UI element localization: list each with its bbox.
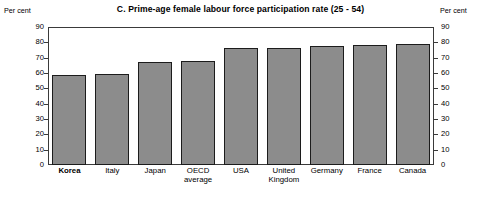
x-axis-category-label: OECD average <box>177 167 220 184</box>
bar <box>224 48 258 165</box>
bar <box>95 74 129 165</box>
bar <box>396 44 430 165</box>
y-tick-label-right: 70 <box>441 54 463 62</box>
bars-layer <box>48 27 434 165</box>
y-tick-label-right: 80 <box>441 38 463 46</box>
y-tick-label-right: 0 <box>441 161 463 169</box>
bar <box>52 75 86 165</box>
y-tick-label-left: 20 <box>22 130 44 138</box>
y-tick-mark-right <box>434 150 438 151</box>
y-tick-label-right: 20 <box>441 130 463 138</box>
x-axis-category-label: Italy <box>91 167 134 176</box>
left-axis-unit-caption: Per cent <box>4 6 31 15</box>
bar <box>138 62 172 165</box>
y-tick-label-left: 70 <box>22 54 44 62</box>
y-tick-mark-right <box>434 134 438 135</box>
y-tick-mark-right <box>434 88 438 89</box>
x-axis-category-label: United Kingdom <box>262 167 305 184</box>
y-tick-label-left: 30 <box>22 115 44 123</box>
y-tick-label-left: 90 <box>22 23 44 31</box>
right-axis-unit-caption: Per cent <box>440 6 467 15</box>
x-axis-category-label: Canada <box>391 167 434 176</box>
y-tick-label-left: 0 <box>22 161 44 169</box>
y-tick-label-left: 60 <box>22 69 44 77</box>
bar <box>353 45 387 165</box>
y-tick-label-right: 60 <box>441 69 463 77</box>
bar <box>181 61 215 165</box>
y-tick-label-right: 90 <box>441 23 463 31</box>
bar <box>267 48 301 165</box>
y-tick-label-right: 40 <box>441 100 463 108</box>
x-axis-category-label: USA <box>220 167 263 176</box>
chart-figure: C. Prime-age female labour force partici… <box>0 0 481 197</box>
category-labels-layer: KoreaItalyJapanOECD averageUSAUnited Kin… <box>48 167 434 195</box>
y-tick-label-right: 30 <box>441 115 463 123</box>
x-axis-category-label: Germany <box>305 167 348 176</box>
x-axis-category-label: France <box>348 167 391 176</box>
y-tick-label-left: 10 <box>22 146 44 154</box>
y-tick-label-left: 40 <box>22 100 44 108</box>
y-tick-label-right: 50 <box>441 84 463 92</box>
y-tick-mark-right <box>434 73 438 74</box>
y-tick-mark-right <box>434 104 438 105</box>
x-axis-category-label: Japan <box>134 167 177 176</box>
y-tick-mark-right <box>434 42 438 43</box>
chart-title: C. Prime-age female labour force partici… <box>0 4 481 14</box>
y-tick-label-left: 80 <box>22 38 44 46</box>
y-tick-mark-right <box>434 58 438 59</box>
y-tick-mark-right <box>434 119 438 120</box>
bar <box>310 46 344 165</box>
x-axis-category-label: Korea <box>48 167 91 176</box>
y-tick-label-right: 10 <box>441 146 463 154</box>
y-tick-label-left: 50 <box>22 84 44 92</box>
